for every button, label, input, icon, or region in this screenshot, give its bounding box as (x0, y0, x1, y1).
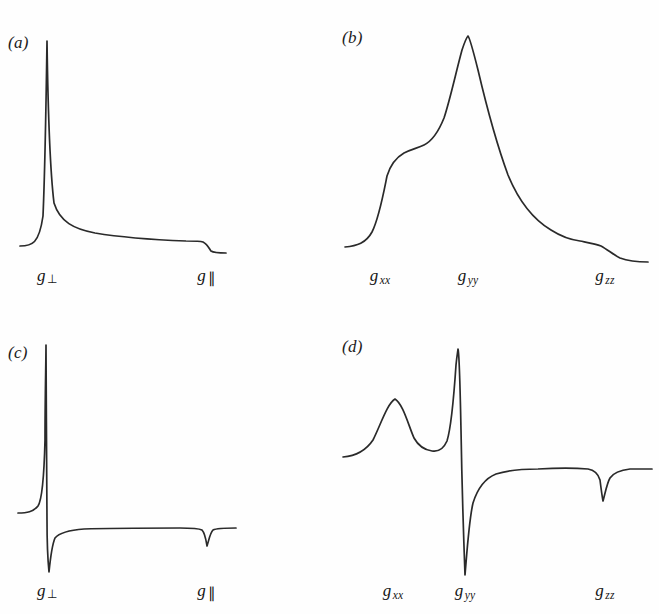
panel-c-axis-labels: g⊥ g∥ (0, 307, 329, 614)
epr-powder-pattern-figure: (a) g⊥ g∥ (b) gxx gyy gzz (c) (0, 0, 659, 614)
panel-c-label-gpar: g∥ (197, 581, 215, 602)
panel-d-label-gzz: gzz (595, 581, 614, 601)
panel-a-axis-labels: g⊥ g∥ (0, 0, 329, 307)
panel-d: (d) gxx gyy gzz (330, 307, 659, 614)
panel-b: (b) gxx gyy gzz (330, 0, 659, 307)
panel-d-axis-labels: gxx gyy gzz (330, 307, 659, 614)
panel-d-label-gxx: gxx (383, 581, 404, 601)
panel-a-label-gperp: g⊥ (37, 266, 57, 287)
panel-b-label-gzz: gzz (595, 266, 614, 286)
panel-b-axis-labels: gxx gyy gzz (330, 0, 659, 307)
panel-a: (a) g⊥ g∥ (0, 0, 329, 307)
panel-b-label-gyy: gyy (458, 266, 479, 286)
panel-a-label-gpar: g∥ (197, 266, 215, 287)
panel-d-label-gyy: gyy (455, 581, 476, 601)
panel-c: (c) g⊥ g∥ (0, 307, 329, 614)
panel-c-label-gperp: g⊥ (37, 581, 57, 602)
panel-b-label-gxx: gxx (370, 266, 391, 286)
